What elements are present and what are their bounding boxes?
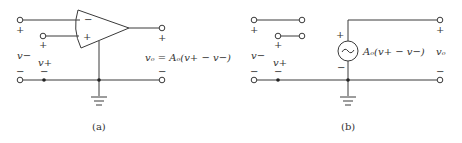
v-minus-label: v− [251,50,265,61]
source-plus-sign: + [336,29,344,40]
terminal-bottom-left [251,77,257,83]
terminal-output-top [437,17,443,23]
terminal-v-plus-top [40,33,46,39]
ground-icon [340,97,356,105]
terminal-v-minus-top [251,17,257,23]
terminal-output-top [159,25,165,31]
output-plus-sign: + [158,32,166,43]
figure-b-equivalent-circuit: + − Aₒ(v+ − v−) + + v− v+ − − + vₒ − (b) [250,17,446,132]
output-plus-sign: + [436,24,444,35]
v-plus-plus-sign: + [39,39,47,50]
v-minus-plus-sign: + [250,24,258,35]
output-label: vₒ [436,46,446,57]
v-minus-plus-sign: + [16,24,24,35]
junction-dot [346,78,350,82]
output-minus-sign: − [436,66,444,77]
terminal-v-plus-open-end [299,33,305,39]
source-top-wire [348,20,437,41]
source-minus-sign: − [337,62,345,73]
terminal-output-bottom [437,77,443,83]
v-plus-plus-sign: + [274,39,282,50]
terminal-bottom-left [17,77,23,83]
junction-dot [276,78,280,82]
junction-dot [42,78,46,82]
v-plus-minus-sign: − [274,66,282,77]
ac-sine-icon [342,49,354,53]
figure-b-caption: (b) [341,121,355,132]
terminal-v-minus-open-end [299,17,305,23]
output-equation: vₒ = Aₒ(v+ − v−) [145,52,231,63]
junction-dot [97,78,101,82]
v-plus-minus-sign: − [40,66,48,77]
opamp-noninverting-sign: + [83,31,91,42]
terminal-v-minus-top [17,17,23,23]
figure-a-caption: (a) [92,121,106,132]
terminal-v-plus-top [275,33,281,39]
source-value: Aₒ(v+ − v−) [362,46,425,57]
v-minus-label: v− [17,50,31,61]
opamp-inverting-sign: − [84,14,92,25]
terminal-output-bottom [159,77,165,83]
output-minus-sign: − [158,66,166,77]
v-minus-minus-sign: − [250,66,258,77]
ground-icon [91,97,107,105]
figure-a-opamp-circuit: − + + + v− v+ − − + − vₒ = Aₒ(v+ − v−) (… [16,10,231,132]
v-minus-minus-sign: − [16,66,24,77]
circuit-diagrams: − + + + v− v+ − − + − vₒ = Aₒ(v+ − v−) (… [0,0,462,143]
